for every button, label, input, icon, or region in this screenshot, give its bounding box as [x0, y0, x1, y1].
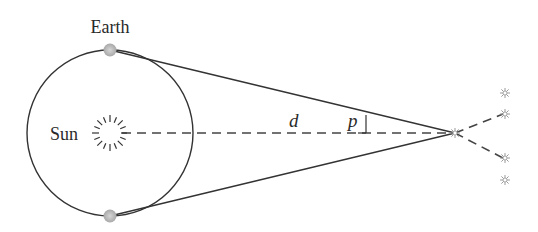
- sun-label: Sun: [50, 124, 78, 144]
- earth-bottom-icon: [104, 210, 117, 223]
- sightline-bottom: [110, 133, 455, 216]
- distant-star-icon: [500, 175, 510, 185]
- earth-label: Earth: [91, 17, 130, 37]
- earth-top-icon: [104, 44, 117, 57]
- parallax-diagram: Earth Sun d p: [0, 0, 538, 232]
- parallax-angle-label: p: [346, 110, 358, 131]
- projection-line-lower: [455, 133, 503, 158]
- distant-star-icon: [500, 153, 510, 163]
- distant-star-icon: [500, 88, 510, 98]
- distant-star-icon: [500, 109, 510, 119]
- sightline-top: [110, 50, 455, 133]
- distance-label: d: [289, 110, 299, 131]
- sun-icon: [92, 115, 127, 151]
- projection-line-upper: [455, 114, 503, 133]
- nearby-star-icon: [450, 128, 460, 138]
